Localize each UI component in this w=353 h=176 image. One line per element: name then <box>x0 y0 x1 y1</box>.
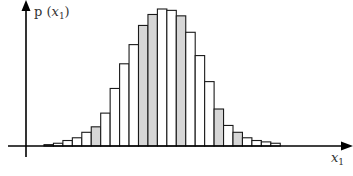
histogram-bar <box>205 82 214 146</box>
histogram-plot <box>0 0 353 176</box>
histogram-bars <box>44 9 280 146</box>
histogram-bar <box>120 64 129 146</box>
histogram-bar <box>72 138 81 146</box>
histogram-bar <box>101 113 110 146</box>
histogram-bar-highlighted <box>139 25 148 146</box>
histogram-bar-highlighted <box>176 16 185 146</box>
histogram-bar <box>157 9 166 146</box>
histogram-bar <box>129 45 138 146</box>
histogram-figure: p (x1) x1 <box>0 0 353 176</box>
histogram-bar <box>224 125 233 146</box>
histogram-bar <box>110 88 119 146</box>
histogram-bar-highlighted <box>148 14 157 146</box>
histogram-bar <box>186 32 195 146</box>
histogram-bar-highlighted <box>91 127 100 146</box>
histogram-bar <box>242 138 251 146</box>
histogram-bar-highlighted <box>214 109 223 146</box>
histogram-bar <box>167 10 176 146</box>
y-axis-arrow-icon <box>22 0 31 11</box>
histogram-bar <box>63 141 72 146</box>
x-axis-label: x1 <box>331 150 344 167</box>
histogram-bar-highlighted <box>233 132 242 146</box>
histogram-bar <box>252 141 261 146</box>
y-axis-label: p (x1) <box>34 4 70 21</box>
histogram-bar <box>82 132 91 146</box>
histogram-bar <box>195 56 204 146</box>
